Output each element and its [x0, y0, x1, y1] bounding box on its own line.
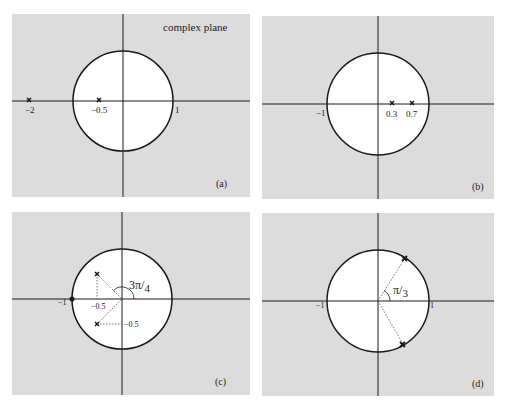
zero-marker: [70, 297, 75, 302]
panel-label: (d): [472, 378, 484, 390]
pole-label: −2: [25, 105, 35, 115]
pole-label: 0.3: [386, 109, 398, 119]
panel-c: −1 −0.5 −0.5 3π/4 (c): [12, 212, 250, 395]
title-label: complex plane: [163, 21, 228, 33]
panel-label: (c): [215, 376, 226, 388]
panel-label: (b): [472, 181, 484, 193]
tick-label-neg1: −1: [316, 301, 325, 310]
tick-label-neg1: −1: [316, 108, 326, 118]
complex-plane-diagram: complex plane −2 −0.5 1 (a) −1 0.3 0.7 (…: [0, 0, 507, 407]
tick-label-1: 1: [430, 301, 434, 310]
pole-label: −0.5: [91, 105, 108, 115]
pole-label: 0.7: [406, 109, 418, 119]
panel-b: −1 0.3 0.7 (b): [262, 16, 494, 199]
imag-part-label: −0.5: [124, 320, 139, 329]
panel-a: complex plane −2 −0.5 1 (a): [12, 14, 250, 197]
panel-d: −1 1 π/3 (d): [262, 213, 494, 396]
real-part-label: −0.5: [91, 302, 106, 311]
tick-label-neg1: −1: [58, 298, 67, 307]
tick-label-1: 1: [175, 105, 180, 115]
panel-label: (a): [216, 178, 227, 190]
